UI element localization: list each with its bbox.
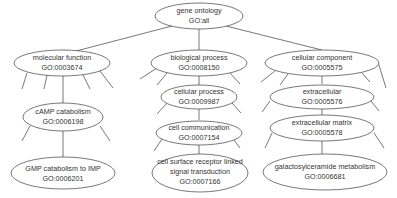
label-id: GO:0003674	[41, 63, 82, 72]
label-name: cellular component	[292, 53, 352, 62]
label-name: extracellular	[303, 87, 342, 96]
edge-stub	[100, 126, 110, 141]
diagram-svg: gene ontology GO:all molecular function …	[0, 0, 397, 198]
edge-root-cc	[226, 26, 322, 50]
edge-stub	[100, 71, 113, 88]
edge-stub	[371, 101, 379, 111]
edge-stub	[265, 133, 272, 148]
edge-stub	[374, 133, 384, 148]
label-id: GO:0007154	[178, 133, 219, 142]
label-name-line1: cell surface receptor linked	[157, 157, 243, 166]
label-id: GO:0008150	[178, 63, 219, 72]
edge-stub	[378, 62, 386, 88]
label-id: GO:0007166	[179, 177, 220, 186]
label-name: cAMP catabolism	[35, 107, 90, 116]
label-name: GMP catabolism to IMP	[25, 164, 101, 173]
label-name: biological process	[170, 53, 228, 62]
edge-stub	[157, 103, 167, 114]
label-name: gene ontology	[176, 6, 222, 15]
label-id: GO:0005575	[301, 63, 342, 72]
label-name: cellular process	[174, 87, 224, 96]
node-gmp-catabolism[interactable]	[11, 157, 115, 189]
edge-stub	[44, 75, 47, 89]
edge-stub	[280, 74, 288, 85]
edge-stub	[22, 126, 30, 141]
label-id: GO:0009987	[178, 97, 219, 106]
edge-stub	[230, 73, 240, 84]
label-id: GO:0006201	[42, 174, 83, 183]
label-id: GO:0006681	[304, 172, 345, 181]
label-name-line2: signal transduction	[170, 167, 230, 176]
label-name: galactosylceramide metabolism	[275, 162, 375, 171]
edge-stub	[154, 139, 162, 151]
edge-stub	[22, 73, 27, 89]
go-tree-diagram: gene ontology GO:all molecular function …	[0, 0, 397, 198]
edge-root-mf	[76, 26, 172, 51]
label-id: GO:0005578	[301, 128, 342, 137]
label-name: extracellular matrix	[292, 118, 353, 127]
label-name: cell communication	[168, 123, 229, 132]
label-id: GO:0005576	[301, 97, 342, 106]
edge-stub	[262, 101, 270, 112]
label-id: GO:0006198	[42, 117, 83, 126]
edge-stub	[234, 140, 240, 148]
label-name: molecular function	[33, 53, 91, 62]
edge-stub	[83, 75, 90, 89]
edge-stub	[140, 68, 157, 79]
label-id: GO:all	[189, 16, 210, 25]
edge-stub	[232, 103, 241, 113]
edge-stub	[157, 73, 167, 85]
edge-stub	[362, 73, 370, 82]
edge-stub	[261, 70, 276, 82]
